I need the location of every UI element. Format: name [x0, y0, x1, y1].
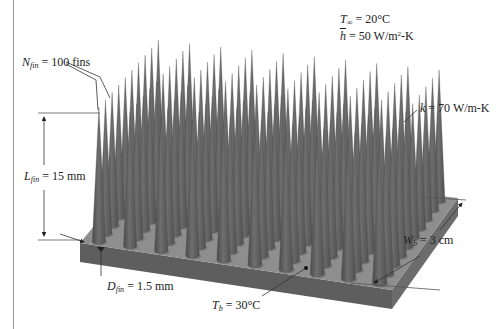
- label-number-of-fins: Nfin = 100 fins: [22, 56, 90, 72]
- label-base-width: Wb = 3 cm: [403, 234, 453, 250]
- label-fin-diameter: Dfin = 1.5 mm: [107, 280, 174, 296]
- label-thermal-conductivity: k = 70 W/m-K: [420, 102, 490, 115]
- heat-sink-diagram: [0, 0, 497, 329]
- t-b-point: [304, 266, 308, 270]
- label-heat-transfer-coefficient: h = 50 W/m2-K: [340, 28, 414, 43]
- label-ambient-temperature: T∞ = 20°C: [340, 13, 390, 29]
- label-fin-length: Lfin = 15 mm: [24, 170, 86, 186]
- d-fin-arrow-left: [60, 234, 84, 242]
- label-base-temperature: Tb = 30°C: [212, 299, 260, 315]
